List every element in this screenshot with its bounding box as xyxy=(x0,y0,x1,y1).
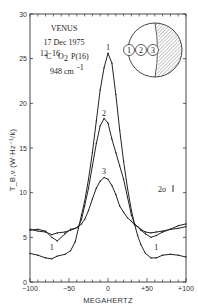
data-series xyxy=(29,53,186,260)
wavenumber-label: 948 cm -1 xyxy=(50,63,84,76)
svg-text:P(16): P(16) xyxy=(71,52,89,61)
svg-text:1: 1 xyxy=(127,46,131,55)
series-wing-label: 1 xyxy=(154,243,158,252)
x-tick-label: −50 xyxy=(63,285,75,292)
x-axis-ticks: −100−500+50+100 xyxy=(22,278,194,292)
y-tick-label: 30 xyxy=(19,11,27,18)
y-axis-title: T_B,ν (W·Hz⁻¹/k) xyxy=(8,129,17,192)
svg-text:2: 2 xyxy=(139,46,143,55)
series-line-2 xyxy=(30,119,186,235)
svg-text:2: 2 xyxy=(64,54,68,63)
venus-disk-inset: 1 2 3 xyxy=(124,22,186,78)
molecule-label: 12 C 16 O 2 P(16) xyxy=(40,49,89,63)
error-bar-annotation: 2σ xyxy=(158,185,173,194)
x-tick-label: 0 xyxy=(106,285,110,292)
chart-canvas: 051015202530 −100−500+50+100 MEGAHERTZ T… xyxy=(0,0,198,307)
series-peak-label: 3 xyxy=(102,167,106,176)
svg-text:2σ: 2σ xyxy=(158,185,167,194)
series-peak-label: 1 xyxy=(106,43,110,52)
series-line-1 xyxy=(30,53,186,258)
x-axis-title: MEGAHERTZ xyxy=(83,296,133,305)
svg-text:948 cm: 948 cm xyxy=(50,67,75,76)
y-tick-label: 25 xyxy=(19,55,27,62)
svg-text:3: 3 xyxy=(151,46,155,55)
x-tick-label: +100 xyxy=(178,285,194,292)
y-tick-label: 15 xyxy=(19,145,27,152)
y-tick-label: 5 xyxy=(23,234,27,241)
target-label: VENUS xyxy=(51,24,78,33)
date-label: 17 Dec 1975 xyxy=(44,38,85,47)
svg-text:C: C xyxy=(46,52,51,61)
series-wing-label: 1 xyxy=(50,243,54,252)
svg-text:-1: -1 xyxy=(77,63,84,72)
y-tick-label: 10 xyxy=(19,189,27,196)
x-tick-label: +50 xyxy=(141,285,153,292)
x-tick-label: −100 xyxy=(22,285,38,292)
y-tick-label: 20 xyxy=(19,100,27,107)
series-peak-label: 2 xyxy=(102,109,106,118)
